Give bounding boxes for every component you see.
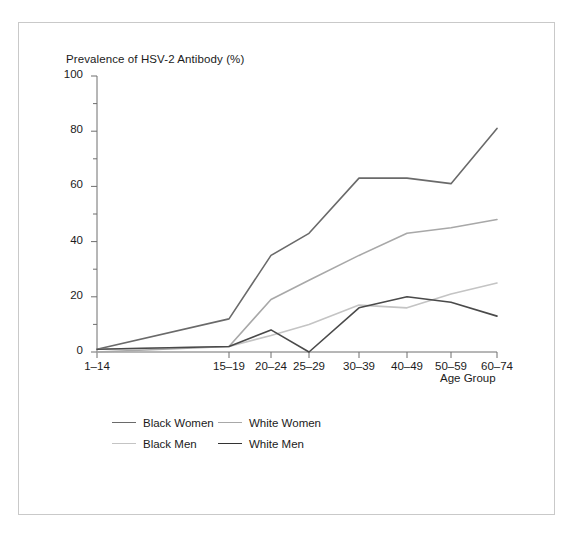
x-axis-tick-label: 1–14: [84, 360, 110, 372]
series-group: [97, 128, 497, 352]
x-axis-tick-label: 20–24: [255, 360, 287, 372]
x-axis-tick-label: 15–19: [213, 360, 245, 372]
y-axis-tick-label: 20: [55, 289, 83, 301]
x-axis-tick-label: 25–29: [293, 360, 325, 372]
legend-label: Black Men: [143, 438, 197, 450]
y-axis-tick-label: 0: [55, 344, 83, 356]
y-axis-tick-label: 80: [55, 123, 83, 135]
series-line-white-men: [97, 297, 497, 352]
x-axis-tick-label: 30–39: [343, 360, 375, 372]
y-axis-tick-label: 60: [55, 178, 83, 190]
legend-item[interactable]: Black Women: [112, 417, 218, 429]
x-axis-tick-label: 50–59: [435, 360, 467, 372]
x-axis-tick-label: 40–49: [391, 360, 423, 372]
plot-area: [0, 0, 576, 540]
series-line-black-women: [97, 128, 497, 349]
legend-label: White Men: [249, 438, 304, 450]
legend-item[interactable]: White Women: [218, 417, 324, 429]
legend-swatch-icon: [112, 443, 136, 444]
legend-swatch-icon: [218, 422, 242, 423]
axes-group: [91, 76, 497, 358]
chart-figure: Prevalence of HSV-2 Antibody (%) 1008060…: [0, 0, 576, 540]
legend-swatch-icon: [218, 443, 242, 444]
legend-row: Black MenWhite Men: [112, 433, 412, 454]
legend-label: Black Women: [143, 417, 214, 429]
x-axis-tick-label: 60–74: [481, 360, 513, 372]
legend-item[interactable]: Black Men: [112, 438, 218, 450]
chart-legend: Black WomenWhite WomenBlack MenWhite Men: [112, 412, 412, 454]
series-line-black-men: [97, 283, 497, 349]
legend-row: Black WomenWhite Women: [112, 412, 412, 433]
x-axis-title: Age Group: [440, 372, 496, 384]
legend-swatch-icon: [112, 422, 136, 423]
y-axis-tick-label: 40: [55, 234, 83, 246]
y-axis-tick-label: 100: [55, 68, 83, 80]
legend-label: White Women: [249, 417, 321, 429]
legend-item[interactable]: White Men: [218, 438, 324, 450]
